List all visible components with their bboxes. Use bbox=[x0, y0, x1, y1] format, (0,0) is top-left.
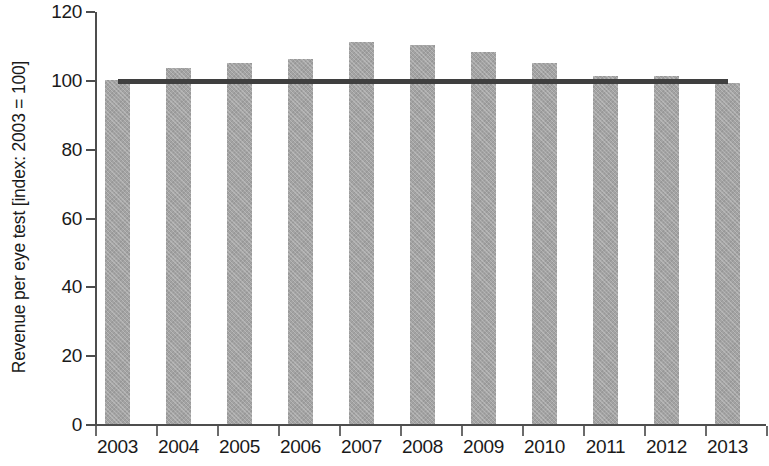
y-axis-tick-label: 120 bbox=[38, 2, 82, 21]
x-axis-tick-label: 2013 bbox=[693, 437, 763, 456]
y-axis-tick-mark bbox=[86, 424, 95, 426]
x-axis-tick-label: 2009 bbox=[449, 437, 519, 456]
y-axis-tick-mark bbox=[86, 80, 95, 82]
y-axis-tick-label: 100 bbox=[38, 71, 82, 90]
x-axis-tick-label: 2004 bbox=[144, 437, 214, 456]
bar-chart: Revenue per eye test [index: 2003 = 100]… bbox=[0, 0, 769, 466]
y-axis-tick-mark bbox=[86, 286, 95, 288]
x-axis-tick-label: 2003 bbox=[83, 437, 153, 456]
y-axis-tick-mark bbox=[86, 218, 95, 220]
y-axis-tick-labels: 020406080100120 bbox=[26, 0, 82, 466]
y-axis-tick-label: 60 bbox=[38, 209, 82, 228]
y-axis-tick-mark bbox=[86, 149, 95, 151]
x-axis-tick-label: 2006 bbox=[266, 437, 336, 456]
y-axis-tick-label: 0 bbox=[38, 415, 82, 434]
x-axis-tick-label: 2012 bbox=[632, 437, 702, 456]
x-axis-tick-mark bbox=[766, 426, 768, 436]
y-axis-tick-mark bbox=[86, 11, 95, 13]
y-axis-tick-mark bbox=[86, 355, 95, 357]
x-axis-tick-label: 2011 bbox=[571, 437, 641, 456]
x-axis-tick-labels: 2003200420052006200720082009201020112012… bbox=[95, 0, 766, 466]
x-axis-tick-label: 2008 bbox=[388, 437, 458, 456]
x-axis-tick-label: 2005 bbox=[205, 437, 275, 456]
x-axis-tick-label: 2010 bbox=[510, 437, 580, 456]
x-axis-tick-label: 2007 bbox=[327, 437, 397, 456]
y-axis-tick-label: 80 bbox=[38, 140, 82, 159]
y-axis-tick-label: 40 bbox=[38, 277, 82, 296]
y-axis-tick-label: 20 bbox=[38, 346, 82, 365]
